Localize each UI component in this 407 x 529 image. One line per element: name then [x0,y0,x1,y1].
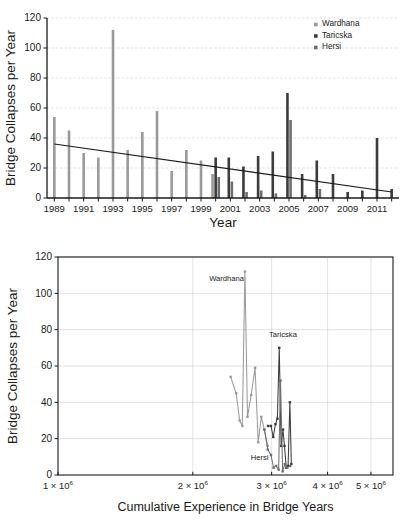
x-tick-label: 2007 [308,203,329,214]
data-point [244,270,246,272]
y-tick-label: 120 [35,251,52,262]
bar [214,158,217,199]
y-tick-label: 80 [41,324,53,335]
data-point [257,441,259,443]
bar [170,171,173,198]
bar-chart-svg: 0204060801001201989199119931995199719992… [0,0,407,232]
bar [315,161,318,199]
bar [211,174,214,198]
data-point [241,425,243,427]
bar [200,161,203,199]
bar [227,158,230,199]
x-tick-label: 2 × 106 [178,479,209,491]
bar [390,189,393,198]
data-point [289,401,291,403]
x-tick-label: 1999 [190,203,211,214]
bar [245,192,248,198]
x-tick-label: 1989 [44,203,65,214]
y-tick-label: 120 [24,12,41,23]
x-tick-label: 2003 [249,203,270,214]
series-annotation: Wardhana [209,274,245,283]
legend-swatch [314,46,318,50]
legend: WardhanaTaricskaHersi [314,19,360,51]
x-tick-label: 1995 [132,203,153,214]
legend-swatch [314,23,318,27]
data-point [263,428,265,430]
bar [156,111,159,198]
bar [97,158,100,199]
data-point [235,392,237,394]
bar-chart-panel: 0204060801001201989199119931995199719992… [0,0,407,232]
bar [217,177,220,198]
data-point [278,347,280,349]
x-tick-label: 2001 [220,203,241,214]
y-tick-label: 40 [41,397,53,408]
data-point [275,465,277,467]
y-axis-title: Bridge Collapses per Year [3,29,18,186]
bar [346,192,349,198]
bar [112,30,115,198]
y-tick-label: 80 [30,72,42,83]
data-point [286,467,288,469]
bar [53,117,56,198]
y-axis-title: Bridge Collapses per Year [5,287,20,444]
x-tick-label: 2005 [278,203,299,214]
y-tick-label: 20 [41,433,53,444]
x-tick-label: 2011 [367,203,387,214]
bar [82,153,85,198]
y-tick-label: 100 [24,42,41,53]
x-tick-label: 1991 [73,203,94,214]
scatter-chart-panel: WardhanaTaricskaHersi0204060801001201 × … [0,232,407,529]
y-tick-label: 100 [35,288,52,299]
y-tick-label: 60 [30,102,42,113]
y-tick-label: 60 [41,360,53,371]
bar [185,150,188,198]
data-point [270,454,272,456]
y-tick-label: 0 [46,469,52,480]
data-point [272,467,274,469]
data-point [254,367,256,369]
x-tick-label: 2009 [337,203,358,214]
scatter-chart-svg: WardhanaTaricskaHersi0204060801001201 × … [0,232,407,529]
series-annotation: Hersi [251,453,269,462]
line-series-wardhana [229,270,268,447]
bar-series-wardhana [53,30,214,198]
bar-series-hersi [217,120,321,198]
y-tick-label: 0 [35,192,41,203]
data-point [283,445,285,447]
data-point [281,470,283,472]
data-point [272,436,274,438]
bar-series-taricska [214,93,393,198]
bar [376,138,379,198]
data-point [279,379,281,381]
bar [275,194,278,199]
x-axis-title: Year [209,215,237,230]
data-point [284,463,286,465]
x-tick-label: 5 × 106 [356,479,387,491]
x-axis-title: Cumulative Experience in Bridge Years [117,500,333,514]
data-point [267,425,269,427]
bar [332,174,335,198]
data-point [267,448,269,450]
data-point [238,419,240,421]
bar [361,191,364,199]
bar [289,120,292,198]
bar [319,189,322,198]
x-tick-label: 1 × 106 [43,479,74,491]
x-tick-label: 4 × 106 [313,479,344,491]
legend-label: Taricska [322,31,352,40]
bar [301,174,304,198]
x-tick-label: 1997 [161,203,182,214]
x-tick-label: 1993 [102,203,123,214]
data-point [277,468,279,470]
data-point [250,394,252,396]
data-point [246,416,248,418]
y-tick-label: 20 [30,162,42,173]
bar [141,132,144,198]
data-point [289,465,291,467]
legend-label: Wardhana [322,19,360,28]
y-tick-label: 40 [30,132,42,143]
data-point [274,423,276,425]
bar [231,182,234,199]
bar [68,131,71,199]
